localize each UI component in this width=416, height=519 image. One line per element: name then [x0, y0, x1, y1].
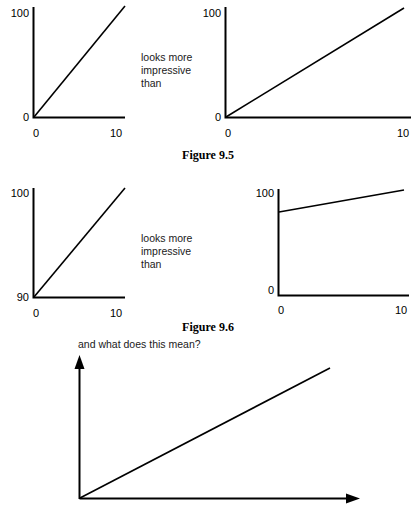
annotation-line-3: than — [141, 258, 162, 270]
annotation-line-2: impressive — [141, 245, 191, 257]
figures-canvas: 100 0 0 10 looks more impressive than 10… — [0, 0, 416, 519]
y-tick-label-bottom: 0 — [23, 111, 29, 123]
x-tick-label-end: 10 — [110, 307, 122, 319]
x-tick-label-end: 10 — [395, 304, 407, 316]
annotation-9-6: looks more impressive than — [141, 232, 193, 270]
data-series-line — [279, 190, 404, 212]
illustration-page: 100 0 0 10 looks more impressive than 10… — [0, 0, 416, 519]
y-tick-label-bottom: 90 — [17, 291, 29, 303]
data-series-line — [226, 8, 404, 117]
y-tick-label-bottom: 0 — [215, 111, 221, 123]
chart-9-5-left: 100 0 0 10 — [11, 6, 125, 139]
x-tick-label-end: 10 — [397, 127, 409, 139]
data-series-line — [34, 6, 125, 117]
x-tick-label-start: 0 — [33, 307, 39, 319]
y-tick-label-top: 100 — [11, 187, 29, 199]
x-tick-label-start: 0 — [33, 127, 39, 139]
chart-9-6-right: 100 0 0 10 — [256, 187, 409, 316]
chart-unlabeled — [75, 355, 361, 504]
chart-axes — [279, 189, 410, 296]
figure-caption-9-6: Figure 9.6 — [182, 320, 234, 334]
x-tick-label-start: 0 — [225, 127, 231, 139]
y-axis-arrowhead-icon — [75, 355, 85, 369]
chart-9-6-left: 100 90 0 10 — [11, 187, 125, 319]
y-tick-label-top: 100 — [203, 7, 221, 19]
y-tick-label-bottom: 0 — [268, 284, 274, 296]
annotation-line-1: looks more — [141, 51, 193, 63]
data-series-line — [80, 368, 330, 498]
x-tick-label-start: 0 — [278, 304, 284, 316]
x-tick-label-end: 10 — [110, 127, 122, 139]
annotation-9-5: looks more impressive than — [141, 51, 193, 89]
annotation-line-2: impressive — [141, 64, 191, 76]
y-tick-label-top: 100 — [11, 7, 29, 19]
data-series-line — [34, 188, 125, 297]
figure-caption-9-5: Figure 9.5 — [182, 148, 234, 162]
y-tick-label-top: 100 — [256, 187, 274, 199]
annotation-line-1: looks more — [141, 232, 193, 244]
annotation-line-3: than — [141, 77, 162, 89]
x-axis-arrowhead-icon — [346, 494, 360, 504]
chart-9-5-right: 100 0 0 10 — [203, 7, 411, 139]
annotation-bottom: and what does this mean? — [78, 338, 201, 350]
